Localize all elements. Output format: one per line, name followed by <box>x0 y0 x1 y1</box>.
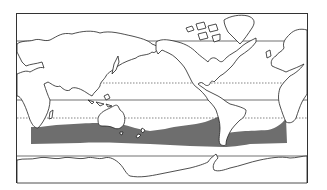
world-map <box>0 0 327 190</box>
british-isles <box>266 50 271 58</box>
tasmania <box>120 132 123 135</box>
